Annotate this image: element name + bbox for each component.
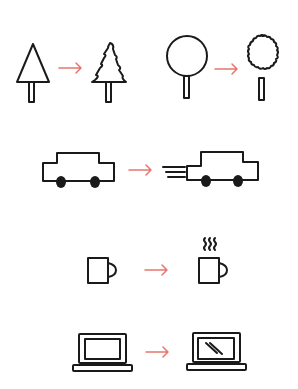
pair-pine-tree [17,43,126,102]
arrow-icon [59,63,81,73]
laptop-glare-icon [187,333,246,370]
pair-round-tree [167,35,278,100]
pine-tree-icon [92,43,126,102]
speed-lines-icon [163,167,185,177]
pair-laptop [73,333,246,371]
arrow-icon [146,347,168,357]
speeding-car-icon [163,152,258,187]
laptop-icon [73,334,132,371]
steaming-mug-icon [199,238,227,283]
arrow-icon [129,165,151,175]
arrow-icon [215,64,237,74]
plain-tree-icon [17,44,49,102]
plain-round-tree-icon [167,36,207,98]
icon-comparison-diagram [0,0,298,389]
pair-car [43,152,258,188]
mug-icon [88,258,116,283]
arrow-icon [145,265,167,275]
car-icon [43,153,114,188]
leafy-tree-icon [248,35,278,100]
pair-mug [88,238,227,283]
steam-icon [204,238,216,250]
